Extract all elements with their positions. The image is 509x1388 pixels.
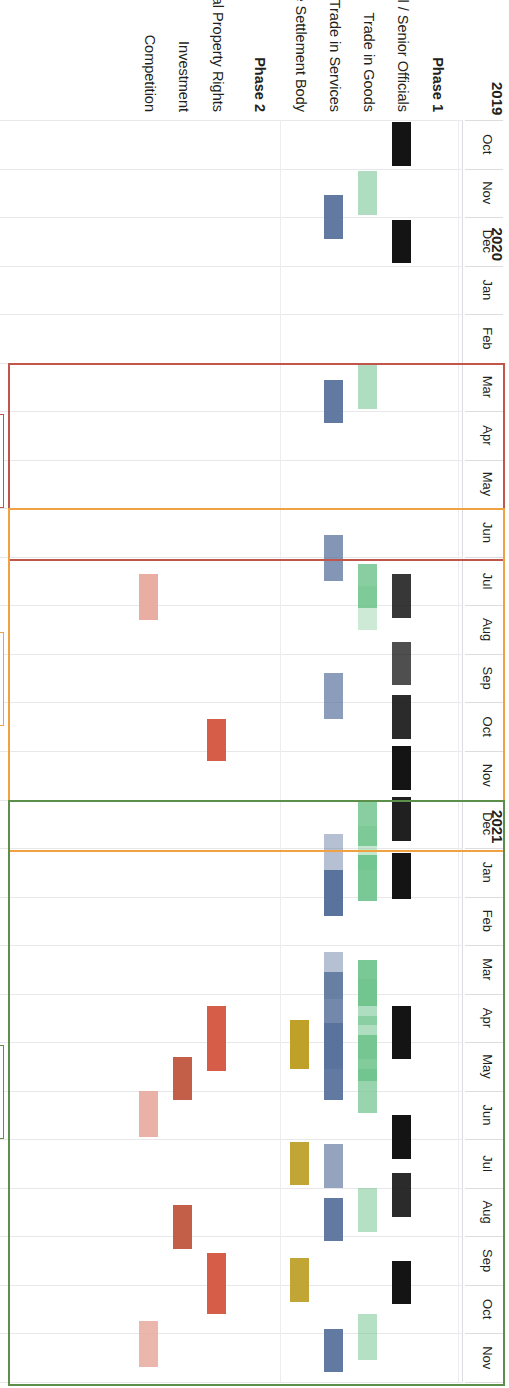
annotation-label-box-cancelled: Cancelled (0, 414, 4, 508)
month-gridline (0, 169, 463, 170)
annotation-label-box-virtual: Virtual (0, 632, 4, 726)
annotation-box-hybrid (8, 800, 505, 1386)
gantt-bar (325, 195, 344, 239)
month-gridline (0, 217, 463, 218)
month-gridline (0, 120, 463, 121)
month-gridline (0, 266, 463, 267)
annotation-label-box-hybrid: Hybrid (0, 1045, 4, 1139)
chart-canvas: 201920202021 OctNovDecJanFebMarAprMayJun… (0, 0, 509, 1388)
month-gridline (0, 314, 463, 315)
gantt-bar (359, 171, 378, 215)
gantt-bar (393, 220, 412, 264)
gantt-bar (393, 122, 412, 166)
